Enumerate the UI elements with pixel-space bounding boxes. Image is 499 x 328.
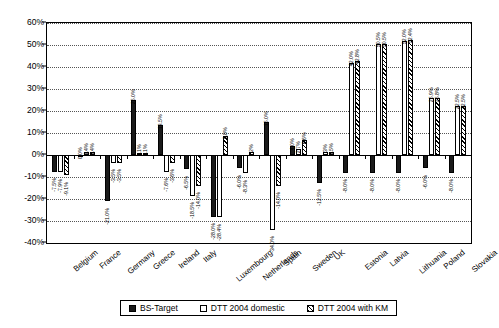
bar-poland-series-0 xyxy=(423,155,428,168)
x-axis-label-italy: Italy xyxy=(201,248,218,264)
bar-slovakia-series-1 xyxy=(455,106,460,156)
y-axis-tick xyxy=(42,88,46,89)
category-separator xyxy=(418,155,419,159)
bar-value-label: 25.8% xyxy=(434,87,439,102)
y-axis-tick-label: 10% xyxy=(4,127,44,137)
x-axis-label-spain: Spain xyxy=(282,248,303,268)
bar-value-label: 1.2% xyxy=(249,144,254,156)
y-axis-tick-label: 20% xyxy=(4,105,44,115)
bar-value-label: 6.6% xyxy=(302,132,307,144)
y-axis-tick-label: 60% xyxy=(4,17,44,27)
category-separator xyxy=(312,155,313,159)
bar-value-label: 1.3% xyxy=(322,144,327,156)
legend-label-bs-target: BS-Target xyxy=(140,303,178,313)
bar-value-label: -8.0% xyxy=(369,179,374,193)
y-axis-tick-label: 40% xyxy=(4,61,44,71)
bar-italy-series-0 xyxy=(184,155,189,169)
bar-belgium-series-0 xyxy=(52,155,57,172)
bar-value-label: -6.0% xyxy=(422,175,427,189)
bar-netherlands-series-1 xyxy=(243,155,248,173)
category-separator xyxy=(339,155,340,159)
y-axis-tick xyxy=(42,132,46,133)
bar-estonia-series-2 xyxy=(355,61,360,155)
y-axis-tick-label: 50% xyxy=(4,39,44,49)
x-axis-label-belgium: Belgium xyxy=(72,248,100,273)
bar-value-label: 1.5% xyxy=(328,144,333,156)
bar-value-label: -8.3% xyxy=(243,180,248,194)
bar-value-label: -3.5% xyxy=(116,169,121,183)
category-separator xyxy=(153,155,154,159)
legend-swatch-bs-target xyxy=(129,305,136,312)
gridline xyxy=(47,23,471,24)
x-axis-label-estonia: Estonia xyxy=(363,248,389,272)
bar-value-label: -14.0% xyxy=(196,193,201,209)
bar-lithuania-series-1 xyxy=(402,41,407,155)
plot-area: -7.5%-7.9%-9.1%0.0%1.4%1.4%-21.0%-3.5%-3… xyxy=(46,22,472,244)
category-separator xyxy=(365,155,366,159)
legend-swatch-dtt-domestic xyxy=(200,305,207,312)
y-axis-tick-label: -10% xyxy=(4,171,44,181)
category-separator xyxy=(180,155,181,159)
y-axis-tick-label: 30% xyxy=(4,83,44,93)
bar-ireland-series-2 xyxy=(170,155,175,163)
bar-ireland-series-0 xyxy=(158,125,163,155)
y-axis-tick xyxy=(42,66,46,67)
bar-uk-series-0 xyxy=(317,155,322,183)
y-axis-tick xyxy=(42,220,46,221)
y-axis-tick xyxy=(42,242,46,243)
bar-germany-series-1 xyxy=(111,155,116,163)
bar-latvia-series-2 xyxy=(382,44,387,155)
bar-value-label: -9.1% xyxy=(63,182,68,196)
bar-value-label: 25.9% xyxy=(428,87,433,102)
legend-label-dtt-km: DTT 2004 with KM xyxy=(318,303,388,313)
bar-value-label: -3.5% xyxy=(110,169,115,183)
x-axis-label-ireland: Ireland xyxy=(177,248,202,271)
bar-italy-series-1 xyxy=(190,155,195,196)
legend-item-1: DTT 2004 domestic xyxy=(200,303,285,313)
bar-belgium-series-2 xyxy=(64,155,69,175)
category-separator xyxy=(233,155,234,159)
y-axis-tick-label: 0% xyxy=(4,149,44,159)
x-axis-label-sweden: Sweden xyxy=(311,248,339,273)
bar-value-label: -3.6% xyxy=(169,170,174,184)
y-axis-tick xyxy=(42,44,46,45)
bar-poland-series-1 xyxy=(429,98,434,155)
category-separator xyxy=(392,155,393,159)
x-axis-label-greece: Greece xyxy=(151,248,177,272)
bar-value-label: -7.9% xyxy=(57,179,62,193)
y-axis-tick xyxy=(42,110,46,111)
bar-italy-series-2 xyxy=(196,155,201,186)
bar-value-label: -8.0% xyxy=(396,179,401,193)
bar-value-label: 13.5% xyxy=(157,114,162,129)
bar-value-label: -14.0% xyxy=(275,193,280,209)
x-axis-label-latvia: Latvia xyxy=(388,248,410,269)
bar-estonia-series-1 xyxy=(349,63,354,155)
bar-value-label: -7.5% xyxy=(51,178,56,192)
category-separator xyxy=(127,155,128,159)
category-separator xyxy=(100,155,101,159)
bar-value-label: -8.0% xyxy=(343,179,348,193)
legend-item-2: DTT 2004 with KM xyxy=(307,303,388,313)
bar-latvia-series-1 xyxy=(376,44,381,155)
bar-value-label: 42.8% xyxy=(355,50,360,65)
category-separator xyxy=(259,155,260,159)
bar-luxembourg-series-1 xyxy=(217,155,222,217)
bar-value-label: -28.4% xyxy=(216,224,221,240)
y-axis-tick-label: -30% xyxy=(4,215,44,225)
bar-belgium-series-1 xyxy=(58,155,63,172)
y-axis-tick xyxy=(42,154,46,155)
chart-legend: BS-Target DTT 2004 domestic DTT 2004 wit… xyxy=(120,300,397,316)
y-axis-tick xyxy=(42,22,46,23)
y-axis-tick xyxy=(42,198,46,199)
bar-value-label: 8.8% xyxy=(222,128,227,140)
bar-spain-series-0 xyxy=(264,122,269,155)
category-separator xyxy=(286,155,287,159)
y-axis-tick-label: -20% xyxy=(4,193,44,203)
bar-value-label: 1.1% xyxy=(143,144,148,156)
bar-value-label: -6.5% xyxy=(184,176,189,190)
legend-label-dtt-domestic: DTT 2004 domestic xyxy=(211,303,285,313)
bar-lithuania-series-2 xyxy=(408,40,413,155)
bar-spain-series-2 xyxy=(276,155,281,186)
bar-value-label: 25.0% xyxy=(131,89,136,104)
bar-latvia-series-0 xyxy=(370,155,375,173)
